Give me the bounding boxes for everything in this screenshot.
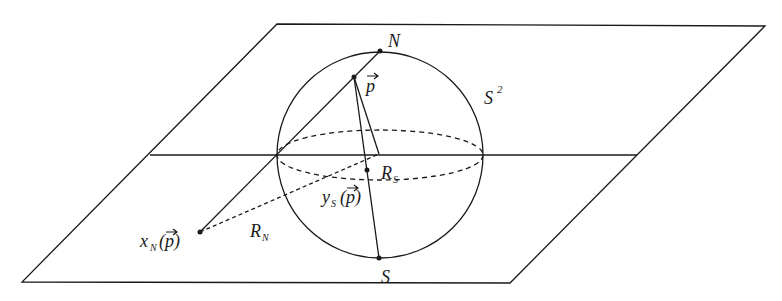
label-proj-north: x N (p) (139, 229, 180, 253)
svg-text:2: 2 (497, 83, 503, 95)
point-N (378, 49, 383, 54)
svg-text:y: y (320, 187, 330, 207)
svg-text:N: N (149, 242, 158, 253)
svg-text:S: S (484, 88, 493, 108)
label-point-p: p (364, 73, 378, 96)
label-sphere: S 2 (484, 83, 503, 108)
projection-plane (22, 24, 765, 283)
line-p-to-S (354, 77, 379, 258)
svg-text:S: S (393, 174, 398, 185)
svg-text:S: S (331, 198, 336, 209)
point-xN (198, 230, 203, 235)
stereographic-projection-diagram: N S S 2 p R S R N x N (p) y S (p) (0, 0, 782, 301)
svg-text:(p): (p) (340, 187, 361, 208)
label-region-south: R S (380, 163, 398, 185)
svg-text:R: R (249, 221, 261, 241)
svg-text:x: x (139, 231, 148, 251)
svg-text:R: R (380, 163, 392, 183)
label-region-north: R N (249, 221, 270, 243)
label-proj-south: y S (p) (320, 185, 361, 209)
svg-text:p: p (364, 76, 375, 96)
point-S (377, 256, 382, 261)
point-yS (365, 168, 370, 173)
svg-text:N: N (261, 232, 270, 243)
point-p (352, 75, 357, 80)
label-south: S (381, 267, 390, 287)
label-north: N (387, 31, 401, 51)
svg-text:(p): (p) (159, 231, 180, 252)
